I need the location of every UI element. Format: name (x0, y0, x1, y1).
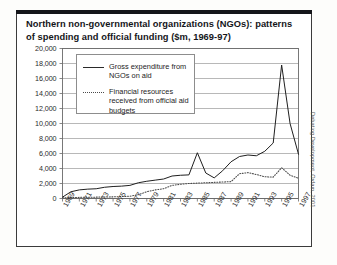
figure-container: Northern non-governmental organizations … (0, 0, 337, 265)
chart-title: Northern non-governmental organizations … (26, 18, 306, 43)
legend-label-gross-expenditure: Gross expenditure from NGOs on aid (109, 62, 195, 81)
source-credit: Debating Development, Oxfam, 2001 (310, 112, 316, 207)
legend-swatch-dotted-line (83, 92, 104, 93)
chart-title-line-2: of spending and official funding ($m, 19… (26, 31, 306, 44)
title-rule (16, 10, 312, 14)
chart-legend: Gross expenditure from NGOs on aid Finan… (76, 54, 195, 114)
figure-border (16, 10, 312, 247)
legend-swatch-solid-line (83, 67, 104, 68)
chart-title-line-1: Northern non-governmental organizations … (26, 18, 306, 31)
legend-label-official-funding: Financial resources received from offici… (109, 87, 195, 115)
